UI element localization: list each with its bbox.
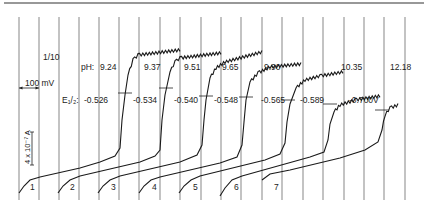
series-values: 9.24-0.5269.37-0.5349.51-0.5409.65-0.548… <box>84 62 412 105</box>
ph-row-label: pH: <box>81 62 94 72</box>
current-scale-bar: 4 x 10⁻⁷ A <box>23 130 34 165</box>
curve-number-label: 1 <box>30 182 35 192</box>
e-half-value: -0.565 <box>261 95 285 105</box>
curve-number-label: 6 <box>234 182 239 192</box>
e-half-value: -0.534 <box>133 95 157 105</box>
ph-value: 9.90 <box>264 62 281 72</box>
polarogram-curve-5 <box>179 71 343 193</box>
ph-value: 9.65 <box>222 62 239 72</box>
ph-value: 9.24 <box>100 62 117 72</box>
voltage-scale-bar: 100 mV <box>19 78 55 90</box>
current-scale-label: 4 x 10⁻⁷ A <box>23 130 32 164</box>
ph-value: 10.35 <box>341 62 363 72</box>
e-half-value: -0.540 <box>174 95 198 105</box>
polarogram-figure: 100 mV 1/10 4 x 10⁻⁷ A pH: E₁/₂: 9.24-0.… <box>0 0 424 212</box>
curve-number-label: 4 <box>152 182 157 192</box>
curve-number-label: 7 <box>274 182 279 192</box>
ph-value: 9.37 <box>144 62 161 72</box>
curve-number-label: 5 <box>193 182 198 192</box>
polarogram-curve-4 <box>139 63 301 193</box>
sensitivity-label: 1/10 <box>43 52 60 62</box>
e-half-value: -0.700V <box>349 95 379 105</box>
polarogram-curve-7 <box>262 104 398 180</box>
voltage-scale-label: 100 mV <box>25 78 55 88</box>
e-half-value: -0.548 <box>214 95 238 105</box>
ph-value: 12.18 <box>390 62 412 72</box>
curve-number-label: 2 <box>70 182 75 192</box>
e-half-value: -0.526 <box>84 95 108 105</box>
polarogram-curve-6 <box>220 95 380 196</box>
curve-number-label: 3 <box>111 182 116 192</box>
curve-number-labels: 1234567 <box>30 182 279 192</box>
e-half-value: -0.589 <box>300 95 324 105</box>
e-half-row-label: E₁/₂: <box>62 95 79 105</box>
ph-value: 9.51 <box>184 62 201 72</box>
